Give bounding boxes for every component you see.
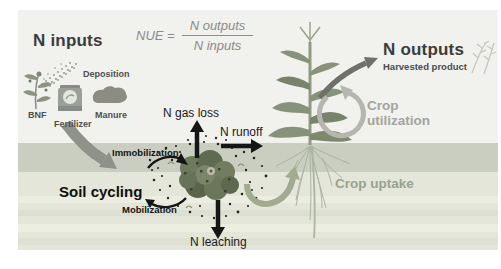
crop-uptake-label: Crop uptake bbox=[335, 176, 414, 191]
n-outputs-title: N outputs bbox=[383, 40, 464, 60]
fertilizer-bag-icon bbox=[58, 85, 82, 111]
bnf-label: BNF bbox=[28, 110, 47, 120]
nue-diagram: N inputs NUE = N outputs N inputs Deposi… bbox=[0, 0, 501, 269]
n-gas-loss-label: N gas loss bbox=[163, 106, 219, 120]
crop-utilization-label: Crop utilization bbox=[367, 98, 430, 128]
crop-utilization-line2: utilization bbox=[367, 113, 430, 128]
n-leaching-label: N leaching bbox=[190, 235, 247, 249]
formula-numerator: N outputs bbox=[182, 18, 254, 36]
n-inputs-title: N inputs bbox=[33, 31, 103, 51]
immobilization-label: Immobilization bbox=[112, 147, 179, 158]
fertilizer-label: Fertilizer bbox=[54, 119, 92, 129]
crop-utilization-line1: Crop bbox=[367, 98, 399, 113]
n-runoff-label: N runoff bbox=[220, 125, 262, 139]
manure-label: Manure bbox=[95, 110, 127, 120]
deposition-label: Deposition bbox=[83, 69, 130, 79]
harvested-product-label: Harvested product bbox=[383, 61, 467, 72]
formula-fraction: N outputs N inputs bbox=[182, 18, 254, 53]
mobilization-label: Mobilization bbox=[122, 204, 177, 215]
formula-lhs: NUE = bbox=[136, 28, 175, 43]
nue-formula: NUE = N outputs N inputs bbox=[136, 18, 253, 53]
soil-cycling-title: Soil cycling bbox=[59, 183, 142, 200]
formula-denominator: N inputs bbox=[194, 36, 242, 53]
